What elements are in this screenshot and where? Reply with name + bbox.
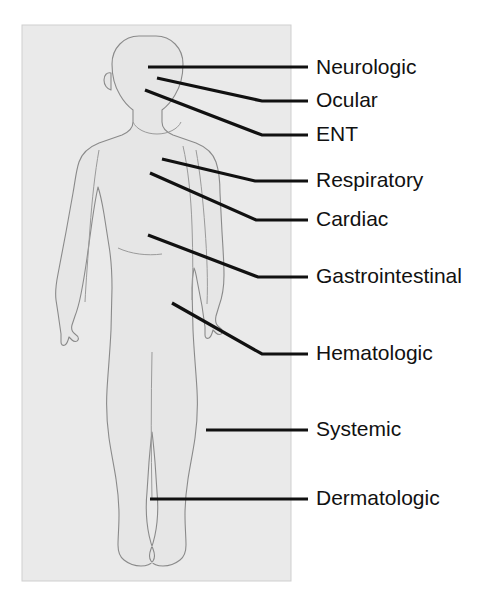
label-respiratory: Respiratory [316,168,424,191]
label-gastrointestinal: Gastrointestinal [316,264,462,287]
label-cardiac: Cardiac [316,207,388,230]
label-hematologic: Hematologic [316,341,433,364]
label-neurologic: Neurologic [316,55,416,78]
label-dermatologic: Dermatologic [316,486,440,509]
label-ent: ENT [316,122,358,145]
diagram-container: Neurologic Ocular ENT Respiratory Cardia… [0,0,483,597]
label-ocular: Ocular [316,88,378,111]
body-systems-diagram: Neurologic Ocular ENT Respiratory Cardia… [0,0,483,597]
system-labels: Neurologic Ocular ENT Respiratory Cardia… [316,55,462,509]
label-systemic: Systemic [316,417,401,440]
